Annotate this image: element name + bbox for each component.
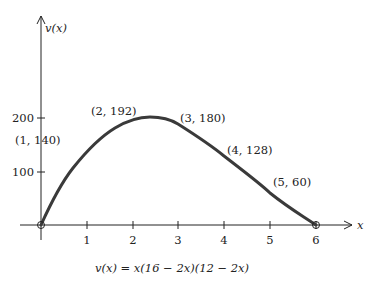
point-label: (2, 192): [91, 104, 137, 118]
x-tick-label: 1: [83, 233, 90, 247]
x-tick-label: 5: [266, 233, 273, 247]
point-label: (3, 180): [180, 111, 226, 125]
function-label: v(x) = x(16 − 2x)(12 − 2x): [95, 261, 249, 275]
y-axis-label: v(x): [45, 21, 67, 35]
chart: 1 2 3 4 5 6 100 200 x v(x) (1, 140) (2, …: [0, 0, 371, 288]
y-tick-label: 100: [12, 165, 34, 179]
x-tick-label: 3: [174, 233, 181, 247]
point-label: (5, 60): [273, 175, 311, 189]
x-tick-label: 4: [220, 233, 227, 247]
x-tick-label: 6: [312, 233, 319, 247]
point-label: (1, 140): [15, 133, 61, 147]
y-tick-label: 200: [12, 111, 34, 125]
x-axis-label: x: [357, 218, 364, 232]
point-label: (4, 128): [227, 143, 273, 157]
curve: [41, 117, 316, 225]
x-tick-label: 2: [129, 233, 136, 247]
